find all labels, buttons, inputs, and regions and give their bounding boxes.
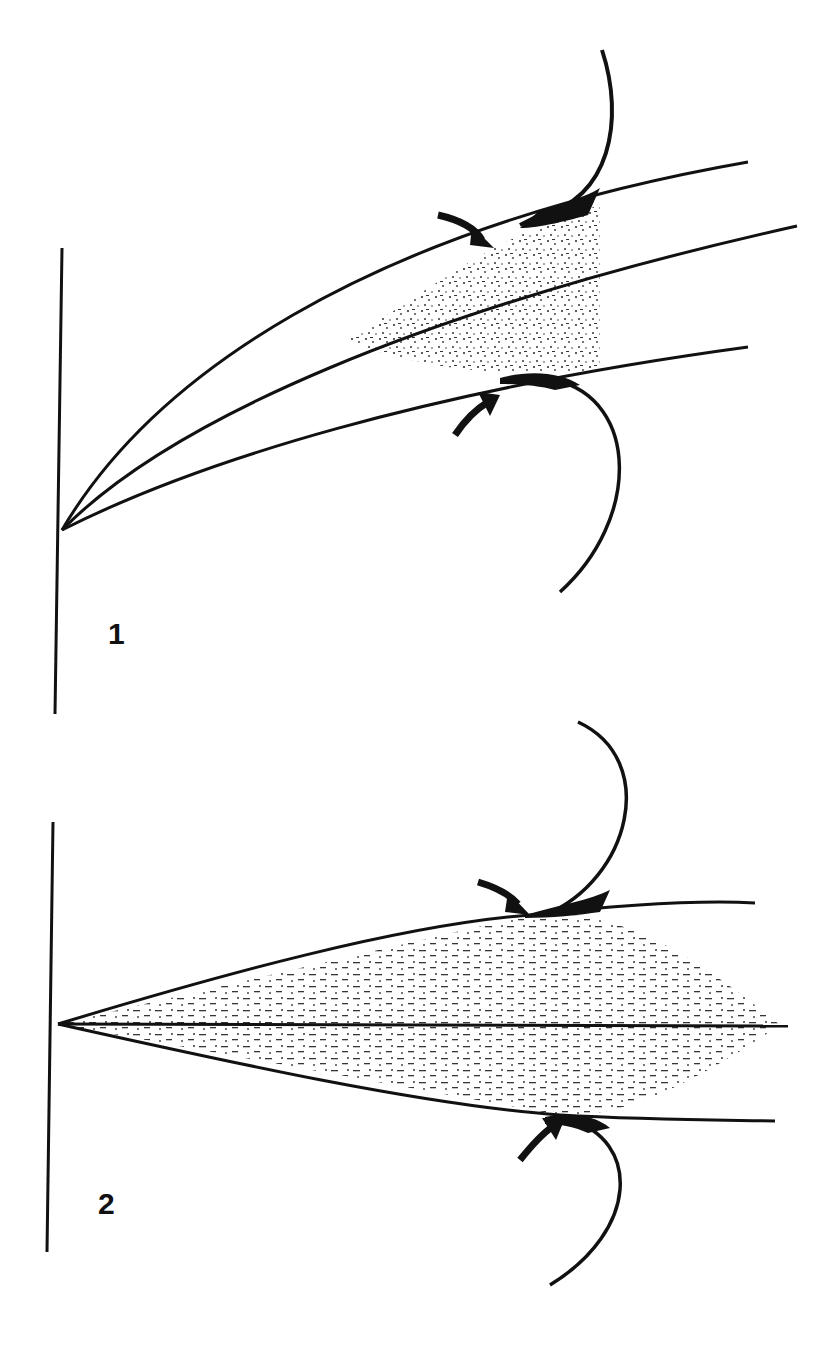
- panel-label-1: 1: [108, 617, 125, 651]
- short-arrow-bottom: [455, 402, 488, 435]
- arrowhead-top: [505, 892, 530, 915]
- curved-arrow-bottom: [550, 1120, 620, 1285]
- lower-curve: [62, 347, 748, 530]
- wall-line: [47, 822, 53, 1252]
- curved-arrow-bottom: [555, 380, 619, 592]
- panel-2: [47, 722, 788, 1285]
- panel-label-2: 2: [98, 1187, 115, 1221]
- curved-arrow-top: [545, 722, 626, 915]
- wall-line: [55, 248, 62, 714]
- curved-arrow-top: [520, 50, 612, 225]
- arrowhead-top-wedge: [525, 890, 610, 918]
- diagram-canvas: [0, 0, 830, 1354]
- panel-1: [55, 50, 797, 714]
- short-arrow-bottom: [520, 1127, 552, 1160]
- middle-line: [58, 1024, 788, 1026]
- dash-texture-zone: [58, 914, 780, 1116]
- middle-curve: [62, 226, 797, 530]
